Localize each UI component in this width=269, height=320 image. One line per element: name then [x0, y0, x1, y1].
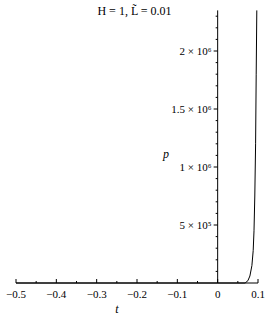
x-tick-label: −0.4 [46, 288, 66, 300]
y-tick-label: 1.5 × 10⁶ [171, 103, 211, 115]
x-tick-label: −0.5 [6, 288, 26, 300]
x-tick-label: 0 [215, 288, 221, 300]
y-tick-label: 2 × 10⁶ [180, 45, 212, 57]
x-tick-label: −0.2 [127, 288, 147, 300]
chart-plot-area: −0.5−0.4−0.3−0.2−0.100.1 5 × 10⁵1 × 10⁶1… [0, 0, 269, 320]
y-tick-label: 1 × 10⁶ [180, 161, 212, 173]
series-curve [16, 10, 257, 283]
x-tick-label: −0.1 [167, 288, 187, 300]
x-tick-label: 0.1 [251, 288, 265, 300]
y-axis: 5 × 10⁵1 × 10⁶1.5 × 10⁶2 × 10⁶ [171, 10, 217, 283]
x-tick-label: −0.3 [87, 288, 107, 300]
x-axis-label: t [115, 302, 119, 316]
y-tick-label: 5 × 10⁵ [180, 219, 212, 231]
y-axis-label: p [162, 147, 169, 161]
x-axis: −0.5−0.4−0.3−0.2−0.100.1 [6, 279, 265, 300]
